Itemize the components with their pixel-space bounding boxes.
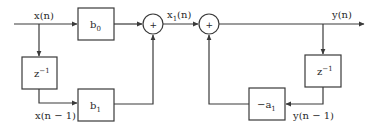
delay-block-left: z−1: [22, 57, 57, 89]
feedback-to-adder2-wire: [209, 35, 249, 104]
neg-a1-block: −a1: [249, 88, 285, 120]
b1-to-adder1-wire: [114, 35, 153, 104]
adder-1: +: [143, 14, 163, 34]
label-output-delayed: y(n − 1): [292, 110, 334, 121]
adder-2: +: [199, 14, 219, 34]
b1-block: b1: [78, 89, 114, 121]
delayed-output-wire: [286, 87, 323, 104]
diagram-svg: x(n) z−1 x(n − 1) b0 b1 +: [0, 0, 380, 129]
block-diagram: x(n) z−1 x(n − 1) b0 b1 +: [0, 0, 380, 129]
label-intermediate: x1(n): [167, 9, 191, 23]
svg-text:+: +: [206, 20, 214, 30]
svg-text:+: +: [150, 20, 158, 30]
b0-block: b0: [78, 8, 114, 40]
delay-block-right: z−1: [305, 55, 341, 87]
label-input: x(n): [34, 10, 54, 21]
label-input-delayed: x(n − 1): [35, 110, 76, 121]
label-output: y(n): [331, 9, 352, 20]
delayed-input-wire: [39, 89, 77, 103]
